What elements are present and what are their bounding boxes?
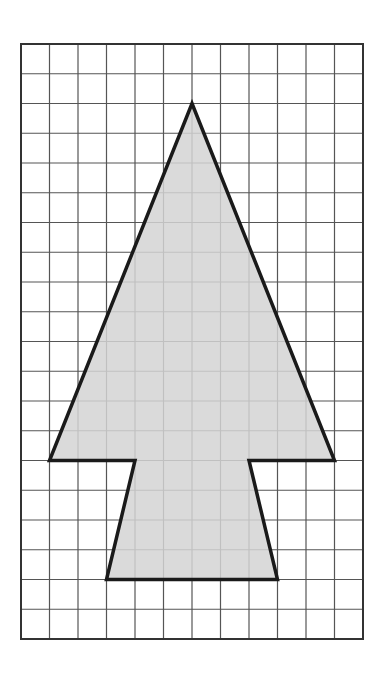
grid-diagram	[0, 0, 380, 681]
